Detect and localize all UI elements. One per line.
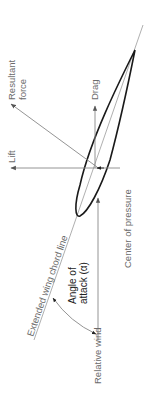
airfoil-diagram: Resultant force Drag Lift Center of pres… — [0, 0, 150, 409]
extended-chord-line-label: Extended wing chord line — [24, 234, 69, 338]
drag-label: Drag — [89, 79, 100, 100]
center-of-pressure-label: Center of pressure — [122, 189, 133, 268]
resultant-force-arrow — [11, 104, 97, 167]
angle-of-attack-label: Angle of attack (α) — [67, 262, 89, 304]
relative-wind-label: Relative wind — [92, 328, 103, 385]
lift-label: Lift — [6, 150, 17, 163]
resultant-force-label: Resultant force — [6, 57, 28, 100]
